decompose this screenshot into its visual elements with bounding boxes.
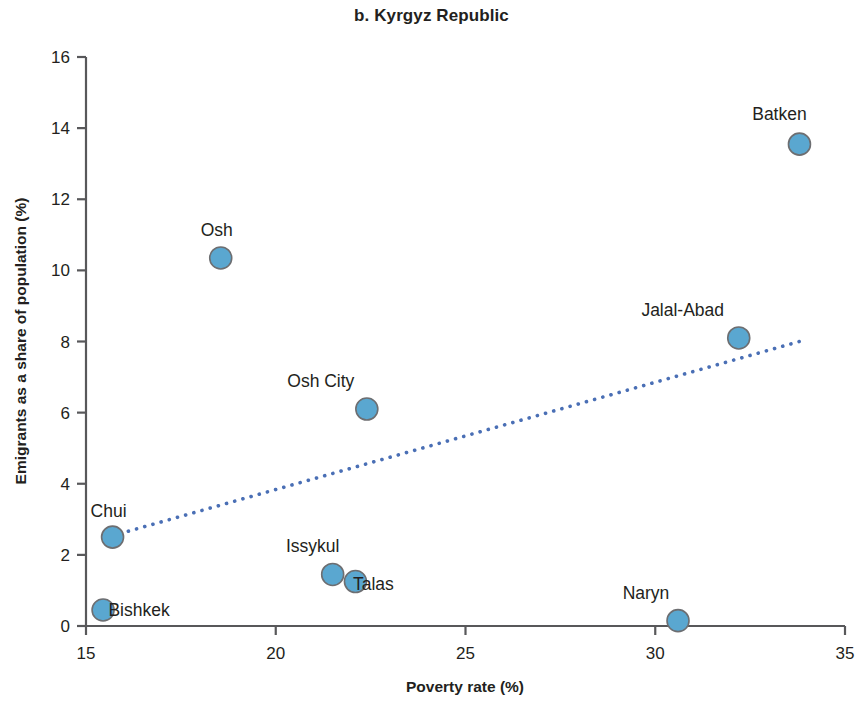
- trend-line: [120, 342, 799, 534]
- y-tick-label: 14: [51, 119, 70, 138]
- data-point-label: Talas: [353, 574, 394, 594]
- y-tick-label: 10: [51, 261, 70, 280]
- y-tick-label: 16: [51, 48, 70, 67]
- x-axis-title: Poverty rate (%): [406, 678, 524, 695]
- data-point-marker[interactable]: [210, 247, 232, 269]
- data-point-label: Chui: [91, 501, 127, 521]
- data-point-label: Issykul: [286, 536, 339, 556]
- data-point-label: Osh City: [287, 371, 354, 391]
- y-axis-ticks: 0246810121416: [51, 48, 86, 636]
- data-point-label: Batken: [752, 104, 806, 124]
- data-point-label: Naryn: [623, 583, 670, 603]
- data-point-marker[interactable]: [728, 327, 750, 349]
- data-point-marker[interactable]: [322, 563, 344, 585]
- x-axis-ticks: 1520253035: [77, 626, 855, 663]
- data-points-group: BishkekChuiOshIssykulTalasOsh CityNarynJ…: [91, 104, 811, 632]
- data-point-marker[interactable]: [102, 526, 124, 548]
- scatter-plot: 0246810121416 1520253035 BishkekChuiOshI…: [0, 0, 863, 704]
- data-point-label: Bishkek: [108, 600, 170, 620]
- x-tick-label: 30: [646, 644, 665, 663]
- x-tick-label: 20: [266, 644, 285, 663]
- x-tick-label: 15: [77, 644, 96, 663]
- data-point-marker[interactable]: [788, 133, 810, 155]
- y-tick-label: 4: [61, 475, 70, 494]
- data-point-label: Jalal-Abad: [641, 300, 724, 320]
- y-tick-label: 0: [61, 617, 70, 636]
- chart-figure: b. Kyrgyz Republic 0246810121416 1520253…: [0, 0, 863, 704]
- y-axis-title: Emigrants as a share of population (%): [12, 198, 29, 485]
- x-tick-label: 35: [836, 644, 855, 663]
- y-tick-label: 2: [61, 546, 70, 565]
- y-tick-label: 12: [51, 190, 70, 209]
- data-point-marker[interactable]: [356, 398, 378, 420]
- y-tick-label: 8: [61, 333, 70, 352]
- data-point-label: Osh: [201, 220, 233, 240]
- y-tick-label: 6: [61, 404, 70, 423]
- data-point-marker[interactable]: [667, 610, 689, 632]
- x-tick-label: 25: [456, 644, 475, 663]
